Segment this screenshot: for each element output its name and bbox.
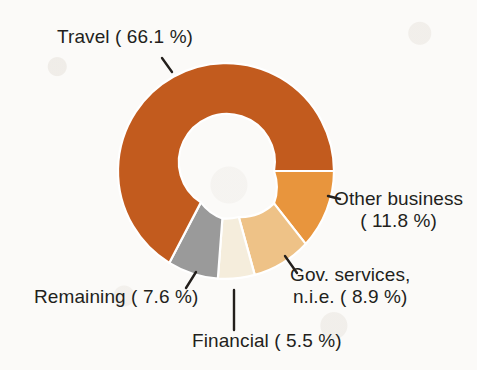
slice-label-gov-services: Gov. services, n.i.e. ( 8.9 %) <box>290 264 410 308</box>
slice-label-other-business-line1: Other business <box>334 188 463 209</box>
slice-label-other-business: Other business ( 11.8 %) <box>334 188 463 232</box>
slice-label-gov-services-line2: n.i.e. ( 8.9 %) <box>290 286 410 308</box>
donut-chart: Travel ( 66.1 %) Other business ( 11.8 %… <box>0 0 477 370</box>
leader-line-travel <box>162 58 172 72</box>
slice-label-other-business-line2: ( 11.8 %) <box>334 210 463 232</box>
slice-label-travel: Travel ( 66.1 %) <box>57 26 193 48</box>
donut-chart-svg <box>0 0 477 370</box>
slice-label-gov-services-line1: Gov. services, <box>290 264 410 285</box>
slice-label-remaining: Remaining ( 7.6 %) <box>34 286 198 308</box>
slice-label-financial: Financial ( 5.5 %) <box>192 330 342 352</box>
